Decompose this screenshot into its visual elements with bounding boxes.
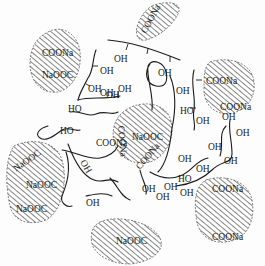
label-oh: OH [178, 154, 192, 164]
label-oh: OH [180, 188, 194, 198]
label-coona: COONa [212, 232, 244, 242]
label-ho: HO [178, 174, 192, 184]
polymer-network-diagram: COONa COONa NaOOC COONa COONa COONa NaOO… [0, 0, 265, 266]
label-oh: OH [196, 164, 210, 174]
label-oh: OH [208, 142, 222, 152]
label-naooc: NaOOC [42, 70, 73, 80]
label-oh: OH [236, 128, 250, 138]
label-oh: OH [118, 84, 132, 94]
label-coona: COONa [206, 76, 238, 86]
label-naooc: NaOOC [16, 204, 47, 214]
label-oh: OH [142, 184, 156, 194]
label-coona: COONa [42, 48, 74, 58]
label-naooc: NaOOC [116, 236, 147, 246]
label-oh: OH [222, 112, 236, 122]
label-oh: OH [86, 198, 100, 208]
label-oh: OH [156, 192, 170, 202]
label-coona: COONa [220, 102, 252, 112]
label-oh: OH [164, 182, 178, 192]
label-oh: OH [78, 158, 94, 175]
label-oh: OH [100, 66, 114, 76]
label-oh: OH [176, 86, 190, 96]
label-naooc: NaOOC [132, 132, 163, 142]
label-ho: HO [68, 104, 82, 114]
label-ho: HO [60, 126, 74, 136]
label-naooc: NaOOC [26, 180, 57, 190]
particle-top-left [30, 29, 80, 92]
label-coona: COONa [96, 138, 128, 148]
label-coona: COONa [212, 184, 244, 194]
diagram-svg: COONa COONa NaOOC COONa COONa COONa NaOO… [0, 0, 265, 266]
label-oh: OH [224, 156, 238, 166]
label-oh: OH [196, 116, 210, 126]
label-oh: OH [100, 88, 114, 98]
label-oh: OH [114, 54, 128, 64]
label-oh: OH [158, 68, 172, 78]
label-ho: HO [180, 106, 194, 116]
